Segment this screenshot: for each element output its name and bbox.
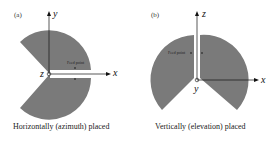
feed-point-label: Feed point xyxy=(67,60,84,65)
y-axis-label: y xyxy=(53,8,57,19)
feed-point-label: Feed point xyxy=(168,50,185,55)
panel-vertical-placement: (b) z x y Feed point Vertically (elevati… xyxy=(140,0,279,142)
z-axis-label: z xyxy=(202,8,206,19)
panel-tag: (a) xyxy=(14,11,22,19)
x-axis-label: x xyxy=(261,74,265,85)
caption: Vertically (elevation) placed xyxy=(155,122,246,131)
antenna-diagram-vertical xyxy=(140,0,279,142)
z-axis-label: z xyxy=(40,68,44,79)
y-axis-label: y xyxy=(194,83,198,94)
panel-tag: (b) xyxy=(151,11,159,19)
panel-horizontal-placement: (a) y x z Feed point Horizontally (azimu… xyxy=(0,0,139,142)
antenna-diagram-horizontal xyxy=(0,0,139,142)
caption: Horizontally (azimuth) placed xyxy=(13,122,109,131)
x-axis-label: x xyxy=(113,67,117,78)
